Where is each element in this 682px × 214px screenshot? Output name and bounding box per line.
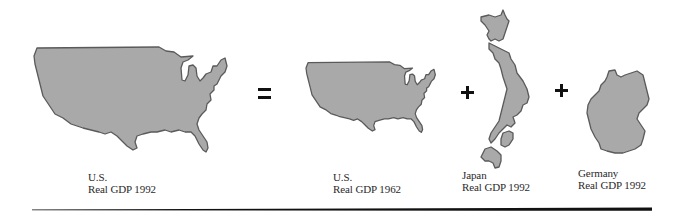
equals-icon — [258, 88, 271, 100]
caption: Real GDP 1992 — [462, 181, 530, 193]
country-name: U.S. — [88, 171, 156, 183]
us-1962-label: U.S. Real GDP 1962 — [333, 171, 401, 195]
japan-1992-label: Japan Real GDP 1992 — [462, 169, 530, 193]
us-map-large-shape — [31, 46, 228, 154]
us-1992-map — [31, 46, 228, 154]
japan-1992-map — [479, 9, 534, 169]
germany-map-shape — [585, 69, 653, 155]
us-1992-label: U.S. Real GDP 1992 — [88, 171, 156, 195]
japan-map-shape — [479, 9, 534, 169]
caption: Real GDP 1992 — [578, 179, 646, 191]
caption: Real GDP 1962 — [333, 183, 401, 195]
us-map-small-shape — [304, 61, 436, 134]
plus-icon — [461, 86, 474, 99]
country-name: Japan — [462, 169, 530, 181]
germany-1992-label: Germany Real GDP 1992 — [578, 167, 646, 191]
bottom-rule-divider — [32, 207, 652, 211]
country-name: U.S. — [333, 171, 401, 183]
plus-icon — [555, 84, 568, 97]
caption: Real GDP 1992 — [88, 183, 156, 195]
us-1962-map — [304, 61, 436, 134]
country-name: Germany — [578, 167, 646, 179]
germany-1992-map — [585, 69, 653, 155]
